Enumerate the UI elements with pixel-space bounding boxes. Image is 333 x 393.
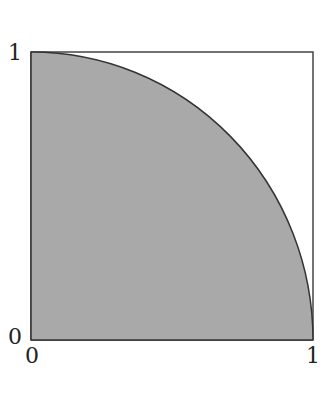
x-label-right: 1: [306, 345, 320, 367]
shaded-quarter-disk: [31, 52, 313, 340]
quarter-circle-diagram: [0, 0, 333, 393]
x-label-origin: 0: [25, 345, 39, 367]
y-label-origin: 0: [8, 326, 22, 348]
y-label-top: 1: [8, 42, 22, 64]
